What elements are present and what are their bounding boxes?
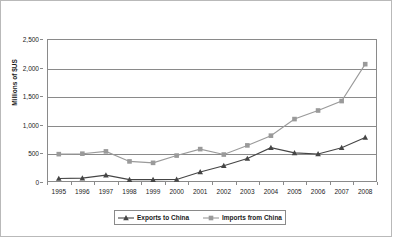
y-axis-tick-label: 1,500	[23, 93, 39, 100]
x-axis-tick-label: 1998	[122, 188, 136, 196]
series-square	[56, 62, 367, 165]
x-axis-tick-mark	[188, 182, 189, 185]
x-axis-tick-mark	[236, 182, 237, 185]
x-axis-tick-mark	[377, 182, 378, 185]
data-point	[221, 152, 226, 157]
x-axis-tick-label: 1995	[52, 188, 66, 196]
x-axis-tick-label: 2006	[311, 188, 325, 196]
data-point	[151, 161, 156, 166]
chart-legend: Exports to ChinaImports from China	[114, 210, 286, 225]
data-point	[56, 152, 61, 157]
y-axis-tick-label: 2,000	[23, 64, 39, 71]
x-axis-tick-label: 2005	[287, 188, 301, 196]
y-axis-tick-mark	[40, 96, 43, 97]
legend-square-icon	[203, 214, 219, 222]
data-point	[269, 133, 274, 138]
legend-item[interactable]: Imports from China	[203, 214, 282, 222]
series-triangle	[56, 134, 368, 181]
data-point	[80, 151, 85, 156]
x-axis-tick-mark	[212, 182, 213, 185]
data-point	[268, 145, 274, 150]
x-axis-tick-label: 2001	[193, 188, 207, 196]
x-axis-tick-label: 2004	[264, 188, 278, 196]
data-point	[174, 153, 179, 158]
series-line	[59, 64, 365, 163]
y-axis-tick-label: 1,000	[23, 121, 39, 128]
y-axis-tick-mark	[40, 182, 43, 183]
y-axis-tick-mark	[40, 125, 43, 126]
x-axis-tick-mark	[330, 182, 331, 185]
series-line	[59, 137, 365, 179]
x-axis-tick-label: 2003	[240, 188, 254, 196]
x-axis-labels: 1995199619971998199920002001200220032004…	[47, 185, 377, 199]
data-point	[339, 99, 344, 104]
x-axis-tick-mark	[165, 182, 166, 185]
x-axis-tick-mark	[306, 182, 307, 185]
x-axis-tick-mark	[71, 182, 72, 185]
x-axis-tick-mark	[353, 182, 354, 185]
chart-container: Millions of $US 05001,0001,5002,0002,500…	[0, 0, 392, 237]
data-point	[316, 108, 321, 113]
x-axis-tick-mark	[283, 182, 284, 185]
y-axis-tick-mark	[40, 68, 43, 69]
data-point	[127, 159, 132, 164]
data-point	[362, 134, 368, 139]
legend-label: Exports to China	[137, 214, 189, 221]
x-axis-tick-mark	[259, 182, 260, 185]
x-axis-tick-label: 2002	[217, 188, 231, 196]
series-layer	[47, 39, 377, 182]
y-axis-labels: 05001,0001,5002,0002,500	[1, 31, 43, 191]
x-axis-tick-mark	[141, 182, 142, 185]
y-axis-tick-label: 0	[35, 179, 39, 186]
x-axis-tick-label: 1997	[99, 188, 113, 196]
y-axis-tick-label: 2,500	[23, 36, 39, 43]
x-axis-tick-label: 2007	[334, 188, 348, 196]
y-axis-tick-mark	[40, 153, 43, 154]
data-point	[292, 117, 297, 122]
x-axis-tick-label: 2008	[358, 188, 372, 196]
data-point	[104, 149, 109, 154]
data-point	[363, 62, 368, 67]
y-axis-tick-label: 500	[28, 150, 39, 157]
data-point	[245, 143, 250, 148]
x-axis-tick-label: 1996	[75, 188, 89, 196]
legend-triangle-icon	[118, 214, 134, 222]
y-axis-tick-mark	[40, 39, 43, 40]
x-axis-tick-mark	[47, 182, 48, 185]
x-axis-tick-mark	[118, 182, 119, 185]
data-point	[198, 147, 203, 152]
legend-item[interactable]: Exports to China	[118, 214, 189, 222]
x-axis-tick-label: 2000	[169, 188, 183, 196]
legend-label: Imports from China	[222, 214, 282, 221]
x-axis-tick-mark	[94, 182, 95, 185]
x-axis-tick-label: 1999	[146, 188, 160, 196]
